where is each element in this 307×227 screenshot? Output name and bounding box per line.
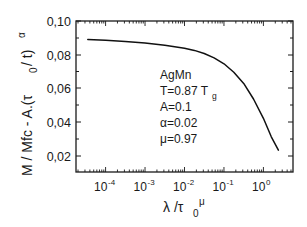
scaling-plot: 0,10 0,08 0,06 0,04 0,02 10-4 10-3 10-2 … bbox=[0, 0, 307, 227]
x-tick-exponent: -4 bbox=[108, 178, 116, 187]
x-tick-base: 10 bbox=[94, 180, 108, 194]
x-tick-base: 10 bbox=[134, 180, 148, 194]
y-tick-label: 0,10 bbox=[47, 15, 71, 29]
x-label-superscript: μ bbox=[199, 196, 205, 207]
x-tick-base: 10 bbox=[173, 180, 187, 194]
y-tick-label: 0,06 bbox=[47, 82, 71, 96]
x-tick-exponent: -1 bbox=[227, 178, 235, 187]
annotation-mu: μ=0.97 bbox=[160, 132, 198, 146]
y-label-mid: / t) bbox=[19, 50, 35, 66]
y-label-superscript: α bbox=[16, 32, 27, 38]
y-label-subscript: 0 bbox=[28, 67, 39, 73]
y-tick-label: 0,04 bbox=[47, 116, 71, 130]
x-tick-exponent: -2 bbox=[187, 178, 195, 187]
y-axis-label: M / Mfc - A.(τ 0 / t) α bbox=[16, 32, 39, 176]
annotation-temperature-sub: g bbox=[212, 91, 217, 101]
annotation-A: A=0.1 bbox=[160, 100, 192, 114]
x-label-main: λ /τ bbox=[163, 199, 184, 215]
x-tick-base: 10 bbox=[213, 180, 227, 194]
annotation-alpha: α=0.02 bbox=[160, 116, 198, 130]
x-tick-base: 10 bbox=[252, 180, 266, 194]
y-tick-label: 0,02 bbox=[47, 150, 71, 164]
y-label-main: M / Mfc - A.(τ bbox=[19, 95, 35, 176]
annotation-temperature: T=0.87 T bbox=[160, 84, 209, 98]
annotation-sample: AgMn bbox=[160, 68, 191, 82]
x-label-subscript: 0 bbox=[193, 208, 199, 219]
x-tick-exponent: -3 bbox=[148, 178, 156, 187]
x-tick-exponent: 0 bbox=[266, 178, 271, 187]
y-tick-labels: 0,10 0,08 0,06 0,04 0,02 bbox=[47, 15, 71, 164]
x-tick-labels: 10-4 10-3 10-2 10-1 100 bbox=[94, 178, 271, 194]
x-axis-label: λ /τ 0 μ bbox=[163, 196, 205, 219]
y-tick-label: 0,08 bbox=[47, 49, 71, 63]
parameter-annotation: AgMn T=0.87 T g A=0.1 α=0.02 μ=0.97 bbox=[160, 68, 217, 146]
